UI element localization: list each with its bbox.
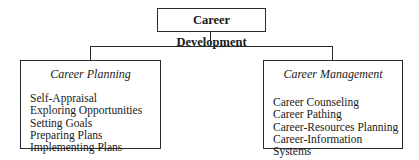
item-list: Career Counseling Career Pathing Career-… <box>273 96 402 157</box>
list-item: Exploring Opportunities <box>30 104 160 116</box>
connector-right-vertical <box>332 46 333 60</box>
node-career-management: Career Management Career Counseling Care… <box>263 60 403 149</box>
connector-root-vertical <box>210 32 211 47</box>
connector-horizontal <box>90 46 333 47</box>
node-career-planning: Career Planning Self-Appraisal Exploring… <box>20 60 161 149</box>
list-item: Implementing Plans <box>30 141 160 153</box>
connector-left-vertical <box>90 46 91 60</box>
item-list: Self-Appraisal Exploring Opportunities S… <box>30 92 160 153</box>
node-title: Career Management <box>264 67 402 82</box>
list-item: Setting Goals <box>30 117 160 129</box>
list-item: Career Pathing <box>273 108 402 120</box>
root-node-career-development: Career Development <box>157 8 266 32</box>
list-item: Career-Information Systems <box>273 133 402 158</box>
root-label: Career Development <box>176 13 246 49</box>
list-item: Career-Resources Planning <box>273 121 402 133</box>
list-item: Preparing Plans <box>30 129 160 141</box>
list-item: Self-Appraisal <box>30 92 160 104</box>
node-title: Career Planning <box>21 67 160 82</box>
list-item: Career Counseling <box>273 96 402 108</box>
